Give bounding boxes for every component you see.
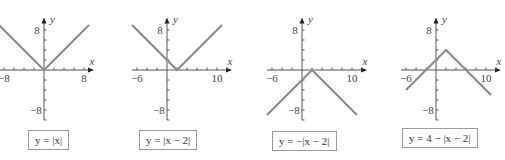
x-axis-label: x: [89, 55, 95, 67]
x-tick-label: −6: [131, 72, 143, 84]
x-tick-label: −6: [400, 72, 412, 84]
y-tick-label: 8: [426, 24, 432, 36]
y-tick-label: −8: [288, 104, 300, 116]
x-axis-label: x: [362, 55, 368, 67]
y-tick-label: −8: [422, 104, 434, 116]
x-tick-label: 8: [81, 72, 87, 84]
x-axis-label: x: [227, 55, 233, 67]
y-axis-label: y: [49, 13, 55, 25]
function-line: [406, 50, 491, 95]
equation-label-2: y = |x − 2|: [139, 130, 197, 150]
y-axis-arrow-icon: [42, 18, 47, 24]
equation-label-3: y = −|x − 2|: [272, 131, 337, 151]
y-axis-label: y: [172, 13, 178, 25]
y-tick-label: 8: [34, 24, 40, 36]
y-axis-arrow-icon: [165, 18, 170, 24]
y-tick-label: −8: [153, 104, 165, 116]
y-axis-arrow-icon: [300, 18, 305, 24]
equation-label-4: y = 4 − |x − 2|: [402, 128, 478, 148]
y-axis-arrow-icon: [434, 18, 439, 24]
x-tick-label: −8: [0, 72, 10, 84]
function-line: [267, 70, 357, 115]
x-tick-label: 10: [347, 72, 359, 84]
y-tick-label: 8: [292, 24, 298, 36]
x-axis-label: x: [496, 55, 502, 67]
function-line: [132, 25, 222, 70]
x-tick-label: −6: [266, 72, 278, 84]
y-axis-label: y: [307, 13, 313, 25]
y-axis-label: y: [441, 13, 447, 25]
x-tick-label: 10: [212, 72, 224, 84]
equation-label-1: y = |x|: [28, 130, 69, 150]
y-tick-label: 8: [157, 24, 163, 36]
x-axis-arrow-icon: [88, 68, 94, 73]
x-tick-label: 10: [481, 72, 493, 84]
y-tick-label: −8: [30, 104, 42, 116]
